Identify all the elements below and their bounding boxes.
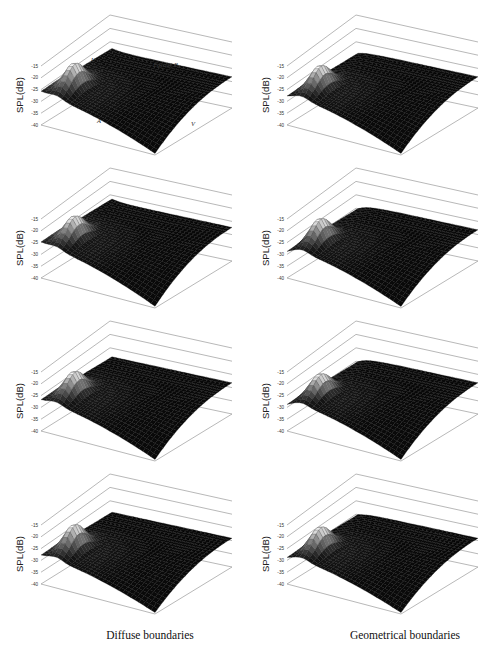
z-tick-label: -15 [277,217,284,222]
surface-svg: -15-20-25-30-35-40 [0,306,245,459]
surface-mesh [41,48,232,153]
z-tick-label: -15 [31,217,38,222]
z-tick-label: -35 [277,570,284,575]
surface-plot-row3-left: -15-20-25-30-35-40SPL(dB) [0,306,245,459]
z-tick-label: -25 [31,240,38,245]
z-axis-label: SPL(dB) [260,77,271,113]
surface-plot-row2-left: -15-20-25-30-35-40SPL(dB) [0,153,245,306]
z-tick-label: -25 [31,546,38,551]
z-tick-label: -30 [31,405,38,410]
gridline [287,474,478,525]
z-tick-label: -25 [31,87,38,92]
z-axis-label: SPL(dB) [14,383,25,419]
z-tick-label: -35 [31,111,38,116]
surface-plot-row4-left: -15-20-25-30-35-40SPL(dB) [0,459,245,612]
z-tick-label: -20 [31,75,38,80]
z-tick-label: -15 [31,523,38,528]
z-tick-label: -30 [277,99,284,104]
z-axis-label: SPL(dB) [260,536,271,572]
surface-mesh [287,515,478,613]
z-tick-label: -30 [31,558,38,563]
z-tick-label: -15 [31,64,38,69]
z-axis-label: SPL(dB) [260,230,271,266]
z-tick-label: -35 [31,417,38,422]
z-tick-label: -35 [277,417,284,422]
z-tick-label: -20 [277,534,284,539]
surface-mesh [41,512,232,612]
surface-plot-row3-right: -15-20-25-30-35-40SPL(dB) [246,306,489,459]
z-tick-label: -30 [31,252,38,257]
z-tick-label: -30 [277,558,284,563]
z-axis-label: SPL(dB) [14,536,25,572]
z-tick-label: -40 [31,582,38,587]
z-axis-label: SPL(dB) [260,383,271,419]
z-tick-label: -20 [31,228,38,233]
z-tick-label: -25 [277,240,284,245]
z-tick-label: -30 [277,252,284,257]
z-tick-label: -25 [277,393,284,398]
z-tick-label: -35 [31,570,38,575]
z-tick-label: -20 [277,228,284,233]
z-tick-label: -15 [277,370,284,375]
surface-plot-row1-left: -15-20-25-30-35-40UFaçade BAVSPL(dB) [0,0,245,153]
z-tick-label: -40 [277,123,284,128]
z-tick-label: -20 [31,381,38,386]
surface-plot-row2-right: -15-20-25-30-35-40SPL(dB) [246,153,489,306]
z-tick-label: -15 [277,523,284,528]
z-tick-label: -25 [277,87,284,92]
z-tick-label: -20 [277,381,284,386]
z-tick-label: -40 [31,429,38,434]
surface-svg: -15-20-25-30-35-40 [246,153,489,306]
z-tick-label: -20 [31,534,38,539]
surface-svg: -15-20-25-30-35-40 [246,306,489,459]
surface-svg: -15-20-25-30-35-40 [246,0,489,153]
z-tick-label: -15 [277,64,284,69]
z-tick-label: -35 [277,264,284,269]
z-tick-label: -25 [31,393,38,398]
surface-svg: -15-20-25-30-35-40UFaçade BAV [0,0,245,153]
surface-svg: -15-20-25-30-35-40 [246,459,489,612]
z-tick-label: -25 [277,546,284,551]
z-axis-label: SPL(dB) [14,77,25,113]
z-tick-label: -40 [277,582,284,587]
annotation-facade-b: Façade B [152,61,178,68]
z-tick-label: -40 [31,123,38,128]
surface-svg: -15-20-25-30-35-40 [0,153,245,306]
surface-svg: -15-20-25-30-35-40 [0,459,245,612]
z-tick-label: -30 [277,405,284,410]
z-tick-label: -40 [277,276,284,281]
z-tick-label: -40 [31,276,38,281]
surface-mesh [287,53,478,153]
z-tick-label: -35 [31,264,38,269]
caption-diffuse-boundaries: Diffuse boundaries [106,629,194,641]
z-tick-label: -20 [277,75,284,80]
annotation-v: V [191,120,196,127]
surface-plot-row1-right: -15-20-25-30-35-40SPL(dB) [246,0,489,153]
z-tick-label: -35 [277,111,284,116]
z-tick-label: -30 [31,99,38,104]
z-tick-label: -15 [31,370,38,375]
z-tick-label: -40 [277,429,284,434]
surface-mesh [287,208,478,307]
gridline [41,474,232,525]
surface-plot-row4-right: -15-20-25-30-35-40SPL(dB) [246,459,489,612]
caption-geometrical-boundaries: Geometrical boundaries [350,629,460,641]
annotation-a: A [96,117,101,124]
z-axis-label: SPL(dB) [14,230,25,266]
